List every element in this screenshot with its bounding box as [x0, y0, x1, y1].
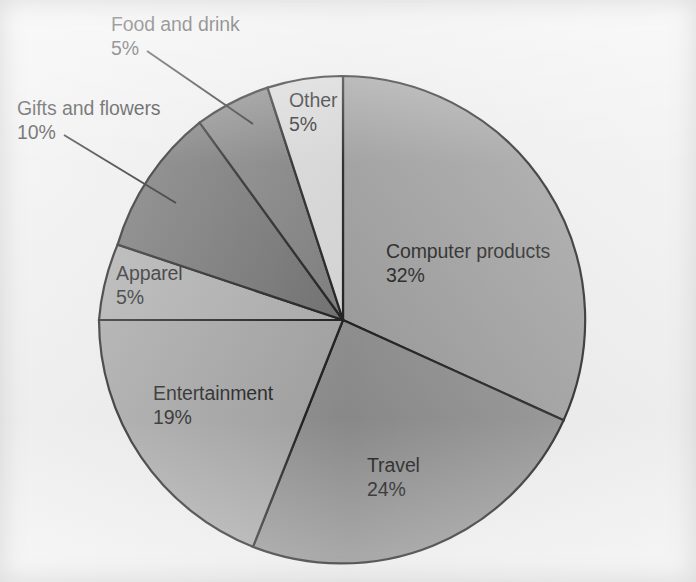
pie-label-other-value: 5%	[289, 112, 337, 136]
pie-label-apparel-value: 5%	[116, 285, 183, 309]
pie-slices	[99, 76, 585, 563]
pie-label-gifts-and-flowers-name: Gifts and flowers	[17, 96, 161, 120]
pie-label-apparel: Apparel 5%	[116, 261, 183, 309]
pie-label-entertainment: Entertainment 19%	[153, 381, 273, 429]
pie-label-other-name: Other	[289, 88, 337, 112]
pie-label-entertainment-name: Entertainment	[153, 381, 273, 405]
pie-label-gifts-and-flowers-value: 10%	[17, 120, 161, 144]
pie-chart-graphic	[0, 0, 696, 582]
pie-label-food-and-drink-value: 5%	[111, 36, 240, 60]
pie-label-computer-products-name: Computer products	[386, 239, 550, 263]
chart-page: Computer products 32% Travel 24% Enterta…	[0, 0, 696, 582]
pie-label-entertainment-value: 19%	[153, 405, 273, 429]
pie-label-travel-name: Travel	[367, 453, 420, 477]
pie-label-other: Other 5%	[289, 88, 337, 136]
pie-label-travel-value: 24%	[367, 477, 420, 501]
pie-label-travel: Travel 24%	[367, 453, 420, 501]
pie-label-computer-products-value: 32%	[386, 263, 550, 287]
pie-label-food-and-drink: Food and drink 5%	[111, 12, 240, 60]
pie-label-computer-products: Computer products 32%	[386, 239, 550, 287]
pie-label-gifts-and-flowers: Gifts and flowers 10%	[17, 96, 161, 144]
pie-label-apparel-name: Apparel	[116, 261, 183, 285]
leader-line-food-and-drink	[147, 51, 253, 124]
pie-label-food-and-drink-name: Food and drink	[111, 12, 240, 36]
